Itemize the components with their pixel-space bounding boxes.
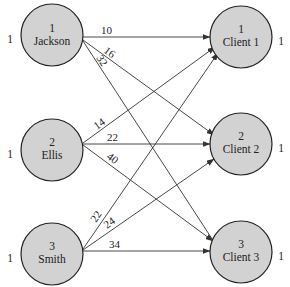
source-node-ellis: 2 Ellis [21, 119, 83, 181]
source-node-name: Ellis [41, 149, 63, 161]
destination-node-id: 3 [238, 238, 244, 250]
edge-label-ellis-client2: 22 [107, 131, 118, 143]
source-node-name: Smith [38, 253, 66, 265]
destination-node-name: Client 1 [223, 36, 260, 48]
edge-label-ellis-client1: 14 [91, 115, 107, 131]
supply-label-jackson: 1 [7, 33, 13, 45]
assignment-network-diagram: 10 16 32 14 22 40 22 24 34 1 Jackson 2 E… [0, 0, 290, 287]
edge-label-jackson-client1: 10 [101, 24, 113, 36]
destination-node-client2: 2 Client 2 [210, 113, 272, 175]
destination-node-client1: 1 Client 1 [210, 6, 272, 68]
source-node-jackson: 1 Jackson [21, 4, 83, 66]
destination-node-id: 1 [238, 23, 244, 35]
source-node-name: Jackson [34, 35, 71, 47]
edge-label-smith-client3: 34 [109, 238, 121, 250]
supply-label-smith: 1 [7, 252, 13, 264]
destination-node-id: 2 [238, 130, 244, 142]
destination-node-name: Client 3 [223, 251, 260, 263]
destination-node-client3: 3 Client 3 [210, 221, 272, 283]
source-node-smith: 3 Smith [21, 223, 83, 285]
edge-label-ellis-client3: 40 [105, 150, 121, 166]
demand-label-client1: 1 [278, 35, 284, 47]
edge-smith-client2 [83, 159, 214, 250]
edge-ellis-client3 [83, 145, 213, 241]
source-node-id: 2 [49, 136, 55, 148]
destination-node-name: Client 2 [223, 143, 260, 155]
demand-label-client3: 1 [278, 250, 284, 262]
edge-jackson-client3 [83, 41, 218, 248]
demand-label-client2: 1 [278, 142, 284, 154]
source-node-id: 3 [49, 240, 55, 252]
source-node-id: 1 [49, 22, 55, 34]
supply-label-ellis: 1 [7, 148, 13, 160]
